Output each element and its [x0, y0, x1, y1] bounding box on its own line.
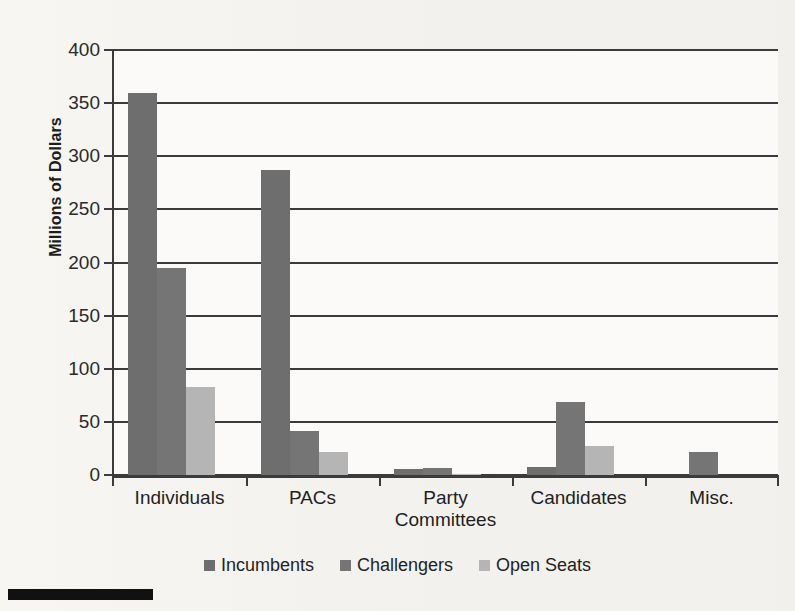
- x-axis-tick: [246, 476, 248, 486]
- scan-artifact: [170, 18, 176, 38]
- bar[interactable]: [527, 467, 556, 476]
- bar[interactable]: [319, 452, 348, 475]
- x-axis-category-label-line: Party: [379, 487, 512, 509]
- x-axis-category-label-line: Individuals: [113, 487, 246, 509]
- x-axis-category-label-line: Candidates: [512, 487, 645, 509]
- bar[interactable]: [157, 268, 186, 475]
- x-axis-tick: [512, 476, 514, 486]
- legend-label: Incumbents: [221, 556, 314, 574]
- bottom-rule: [8, 589, 153, 600]
- bars-layer: [113, 50, 778, 475]
- bar[interactable]: [423, 468, 452, 475]
- x-axis-tick: [777, 476, 779, 486]
- x-axis-category-label: Individuals: [113, 487, 246, 509]
- legend-item[interactable]: Incumbents: [204, 556, 314, 574]
- legend-swatch-icon: [479, 560, 490, 571]
- chart-legend: IncumbentsChallengersOpen Seats: [0, 556, 795, 574]
- x-axis-category-labels: IndividualsPACsPartyCommitteesCandidates…: [113, 487, 778, 537]
- y-axis-tick-label: 350: [40, 93, 100, 112]
- x-axis-tick: [645, 476, 647, 486]
- y-axis-tick-label: 50: [40, 412, 100, 431]
- x-axis-tick: [379, 476, 381, 486]
- x-axis-category-label: Candidates: [512, 487, 645, 509]
- y-axis-tick-label: 400: [40, 40, 100, 59]
- page-background: 400350300250200150100500 Millions of Dol…: [0, 0, 795, 611]
- legend-label: Challengers: [357, 556, 453, 574]
- bar[interactable]: [128, 93, 157, 476]
- x-axis-category-label-line: Committees: [379, 509, 512, 531]
- x-axis-category-label: PACs: [246, 487, 379, 509]
- bar-group: [128, 50, 215, 475]
- x-axis-category-label: PartyCommittees: [379, 487, 512, 531]
- chart-plot-area: [113, 50, 778, 475]
- bar-group: [527, 50, 614, 475]
- x-axis-category-label-line: Misc.: [645, 487, 778, 509]
- y-axis-title: Millions of Dollars: [47, 117, 65, 257]
- x-axis-tick: [112, 476, 114, 486]
- bar[interactable]: [186, 387, 215, 475]
- bar[interactable]: [689, 452, 718, 475]
- bar-group: [660, 50, 747, 475]
- bar-group: [261, 50, 348, 475]
- y-axis-tick-label: 100: [40, 359, 100, 378]
- legend-item[interactable]: Open Seats: [479, 556, 591, 574]
- bar-group: [394, 50, 481, 475]
- bar[interactable]: [585, 446, 614, 475]
- x-axis-line: [112, 475, 779, 478]
- x-axis-category-label: Misc.: [645, 487, 778, 509]
- y-axis-tick-label: 150: [40, 306, 100, 325]
- x-axis-category-label-line: PACs: [246, 487, 379, 509]
- legend-swatch-icon: [340, 560, 351, 571]
- legend-label: Open Seats: [496, 556, 591, 574]
- bar[interactable]: [290, 431, 319, 475]
- legend-item[interactable]: Challengers: [340, 556, 453, 574]
- legend-swatch-icon: [204, 560, 215, 571]
- y-axis-tick-labels: 400350300250200150100500: [38, 50, 100, 475]
- bar[interactable]: [556, 402, 585, 475]
- y-axis-tick-label: 0: [40, 465, 100, 484]
- bar[interactable]: [261, 170, 290, 475]
